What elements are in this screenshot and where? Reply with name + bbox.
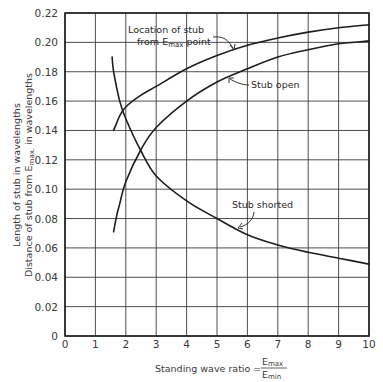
y-axis-ticks: 00.020.040.060.080.100.120.140.160.180.2… xyxy=(35,7,59,342)
series-stub-shorted xyxy=(112,57,369,264)
y-tick-label: 0.14 xyxy=(35,124,59,136)
x-tick-label: 3 xyxy=(153,338,160,350)
x-axis-label-prefix: Standing wave ratio = xyxy=(155,363,261,374)
y-tick-label: 0.20 xyxy=(35,36,58,48)
grid-lines xyxy=(65,13,369,336)
y-tick-label: 0.18 xyxy=(35,66,58,78)
y-tick-label: 0.02 xyxy=(35,301,58,313)
x-tick-label: 2 xyxy=(122,338,129,350)
x-axis-label: Standing wave ratio = Emax Emin xyxy=(155,356,287,381)
annotation-stub-shorted: Stub shorted xyxy=(232,199,293,229)
y-tick-label: 0.22 xyxy=(35,7,58,19)
annotation-location-line1: Location of stub xyxy=(128,24,204,35)
annotation-stub-open: Stub open xyxy=(229,78,300,90)
y-tick-label: 0.12 xyxy=(35,154,58,166)
x-tick-label: 0 xyxy=(62,338,69,350)
chart: 012345678910 00.020.040.060.080.100.120.… xyxy=(0,0,383,382)
x-tick-label: 10 xyxy=(362,338,375,350)
annotation-stub-shorted-label: Stub shorted xyxy=(232,199,293,210)
y-tick-label: 0.16 xyxy=(35,95,59,107)
y-tick-label: 0.06 xyxy=(35,242,59,254)
x-tick-label: 1 xyxy=(92,338,99,350)
x-tick-label: 7 xyxy=(274,338,281,350)
y-tick-label: 0.08 xyxy=(35,213,58,225)
x-tick-label: 4 xyxy=(183,338,190,350)
x-axis-ticks: 012345678910 xyxy=(62,338,376,350)
annotation-stub-open-leader xyxy=(230,79,249,85)
y-axis-label: Length of stub in wavelengths Distance o… xyxy=(11,73,36,277)
x-tick-label: 8 xyxy=(305,338,312,350)
annotation-location: Location of stub from Emax point xyxy=(128,24,235,50)
annotation-location-line2: from Emax point xyxy=(137,36,211,49)
x-axis-label-denominator: Emin xyxy=(262,369,281,381)
y-tick-label: 0 xyxy=(51,330,58,342)
y-axis-label-line1: Length of stub in wavelengths xyxy=(11,103,22,247)
x-axis-label-numerator: Emax xyxy=(262,356,283,368)
x-tick-label: 9 xyxy=(335,338,342,350)
annotation-stub-open-label: Stub open xyxy=(251,79,300,90)
x-tick-label: 6 xyxy=(244,338,251,350)
y-tick-label: 0.04 xyxy=(35,271,59,283)
y-tick-label: 0.10 xyxy=(35,183,58,195)
x-tick-label: 5 xyxy=(214,338,221,350)
